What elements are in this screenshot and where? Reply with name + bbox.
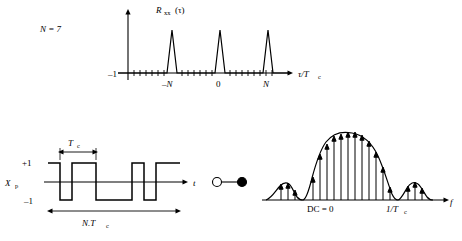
figure-container: R xx (τ) N = 7 –1 –N 0 N τ/T c T c: [0, 0, 462, 241]
spectrum-panel: DC = 0 1/T c f: [262, 132, 454, 215]
sequence-period-marker: [47, 208, 181, 213]
seq-x-axis-label: t: [193, 178, 196, 188]
seq-high-label: +1: [22, 158, 32, 168]
autocorr-title: R: [155, 5, 162, 15]
seq-y-axis-label: X: [4, 178, 11, 188]
diagram-svg: R xx (τ) N = 7 –1 –N 0 N τ/T c T c: [0, 0, 462, 241]
transform-connector: [213, 178, 247, 187]
chip-duration-label-subscript: c: [77, 142, 80, 149]
sequence-period-label: N.T: [81, 218, 96, 228]
pn-sequence-panel: T c N.T c +1 –1 X p t: [4, 138, 196, 229]
seq-y-axis-label-subscript: p: [15, 182, 18, 189]
autocorr-x-axis-label: τ/T: [298, 69, 310, 79]
spectrum-x-axis-arrow: [444, 197, 450, 202]
autocorr-x-axis-label-subscript: c: [318, 73, 321, 80]
spectrum-x-axis-label: f: [450, 197, 454, 207]
autocorrelation-panel: R xx (τ) N = 7 –1 –N 0 N τ/T c: [39, 5, 321, 89]
autocorr-title-subscript: xx: [164, 9, 171, 16]
seq-low-label: –1: [23, 196, 33, 206]
spectrum-freq-label-subscript: c: [404, 208, 407, 215]
autocorr-tick-mid-label: 0: [216, 79, 221, 89]
spectrum-lines: [279, 132, 424, 200]
spectrum-dc-label: DC = 0: [307, 204, 334, 214]
autocorr-tick-left-label: –N: [161, 79, 174, 89]
autocorr-x-axis-arrow: [288, 70, 294, 75]
chip-duration-label: T: [68, 138, 74, 148]
seq-x-axis-arrow: [183, 179, 189, 184]
autocorr-y-axis-arrow: [125, 9, 130, 15]
connector-open-circle: [213, 178, 222, 187]
autocorr-waveform: [118, 30, 288, 73]
autocorr-n-label: N = 7: [39, 24, 62, 34]
autocorr-tick-right-label: N: [262, 79, 270, 89]
chip-duration-marker: [58, 148, 98, 160]
autocorr-title-arg: (τ): [175, 5, 185, 15]
spectrum-freq-label: 1/T: [386, 204, 399, 214]
sequence-period-label-subscript: c: [106, 222, 109, 229]
connector-filled-circle: [238, 178, 247, 187]
autocorr-ymin-label: –1: [107, 69, 117, 79]
